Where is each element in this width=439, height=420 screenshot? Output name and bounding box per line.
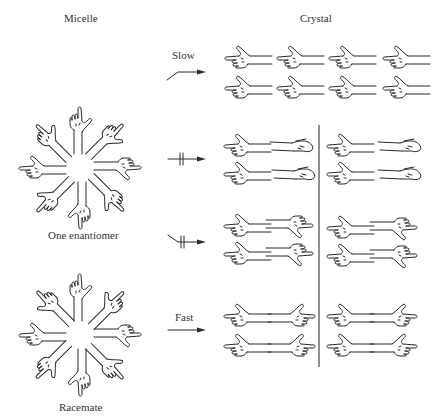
arrow-slow xyxy=(167,70,206,81)
arrow-blocked-2 xyxy=(168,235,206,248)
arrow-blocked-1 xyxy=(168,153,206,165)
rosette-one-enantiomer xyxy=(19,107,141,229)
crystal-row-homochiral xyxy=(225,46,430,98)
crystal-row-fast xyxy=(224,304,417,356)
arrow-fast xyxy=(168,328,206,333)
rosette-racemate xyxy=(19,274,141,396)
crystal-row-blocked-2 xyxy=(224,214,417,268)
diagram-canvas xyxy=(0,0,439,420)
crystal-row-blocked-1 xyxy=(224,134,421,184)
